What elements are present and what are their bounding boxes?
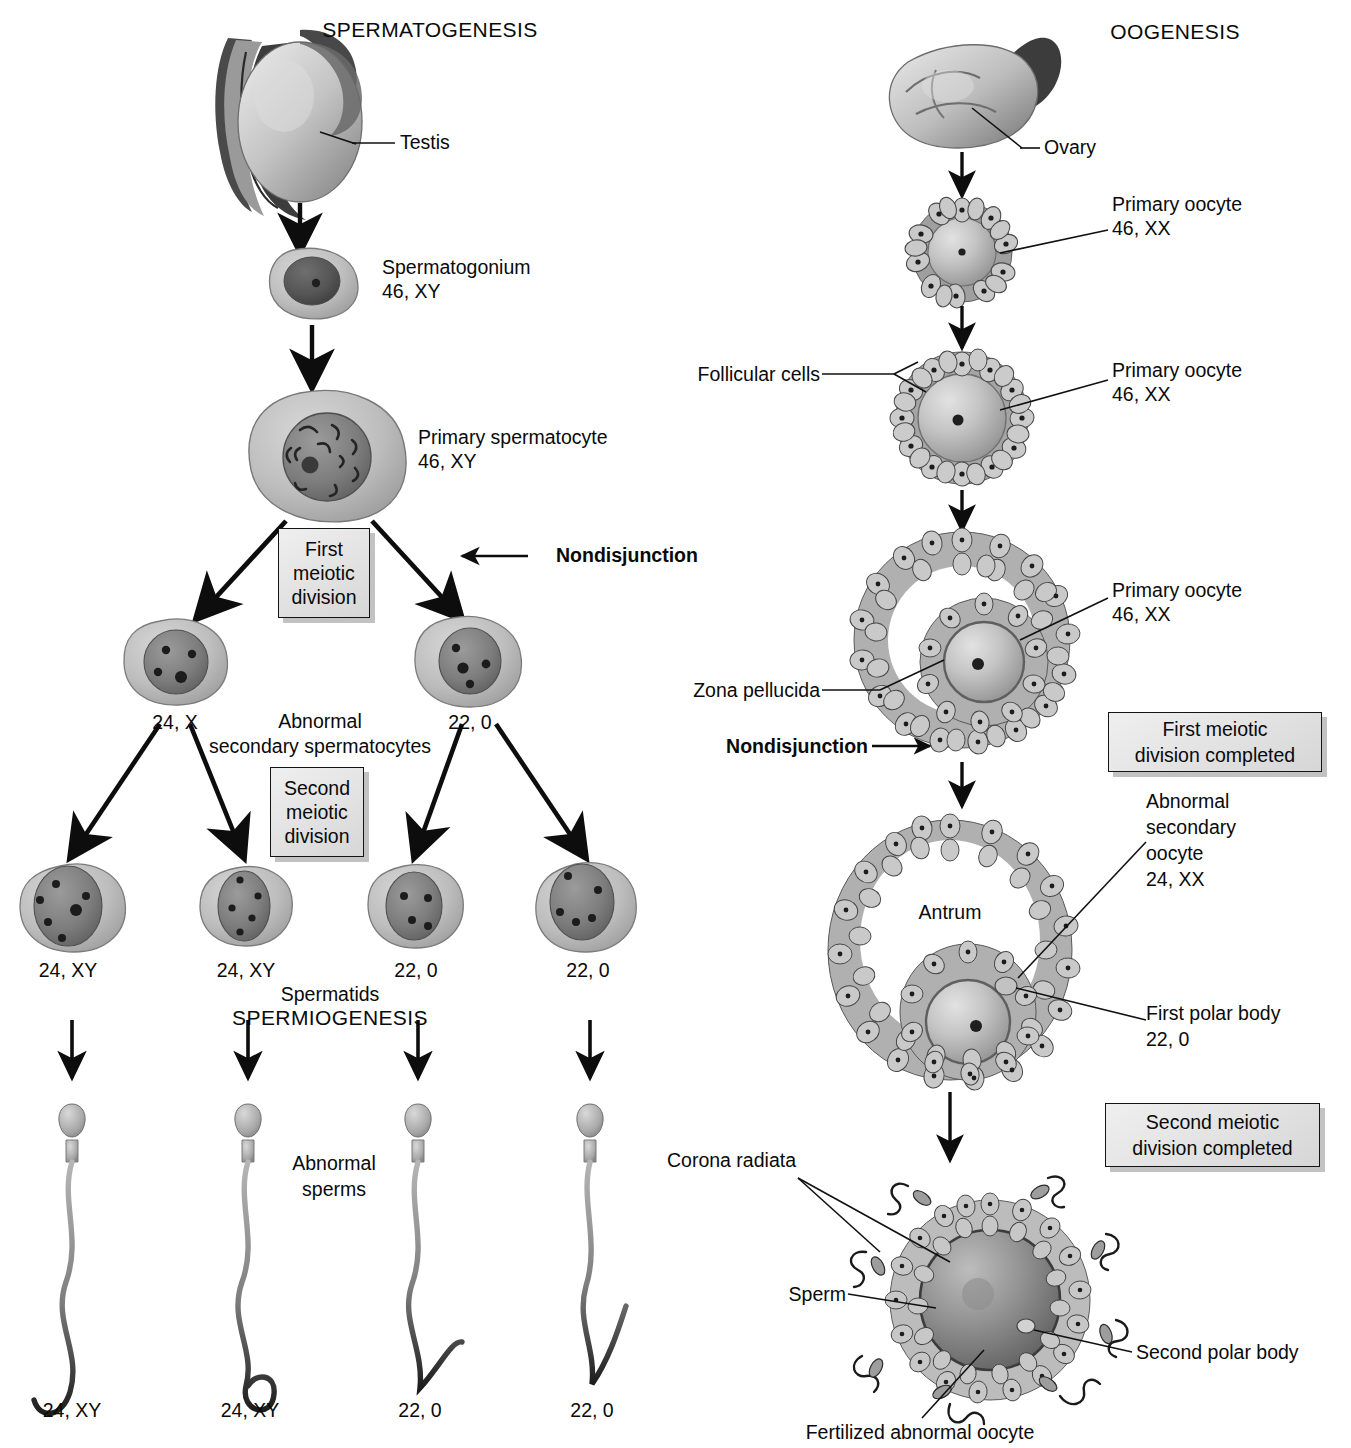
secondary-spermatocyte-right xyxy=(415,616,522,707)
second-polar-body-label: Second polar body xyxy=(1136,1340,1299,1364)
abnormal-secondary-oocyte-label: Abnormal secondary oocyte 24, XX xyxy=(1146,788,1236,892)
nondisjunction-label-right: Nondisjunction xyxy=(726,734,868,758)
sperm-3-karyotype: 22, 0 xyxy=(398,1398,441,1422)
sperm-label: Sperm xyxy=(789,1282,846,1306)
spermatid-1 xyxy=(20,864,125,952)
corona-radiata-label: Corona radiata xyxy=(667,1148,796,1172)
sperm-4 xyxy=(577,1104,626,1384)
sperm-1-karyotype: 24, XY xyxy=(43,1398,102,1422)
abnormal-sperms-label: Abnormal sperms xyxy=(224,1150,444,1202)
spermatid-4 xyxy=(536,863,636,952)
sperm-1 xyxy=(34,1104,85,1413)
second-meiotic-division-completed-box: Second meiotic division completed xyxy=(1105,1103,1320,1167)
spermatids-label: Spermatids xyxy=(281,982,380,1006)
testis-label: Testis xyxy=(400,130,450,154)
testis-illustration xyxy=(215,30,362,220)
sperm-4-karyotype: 22, 0 xyxy=(570,1398,613,1422)
antrum-label: Antrum xyxy=(919,900,982,924)
spermatogonium-label: Spermatogonium xyxy=(382,255,531,279)
spermatogenesis-title: SPERMATOGENESIS xyxy=(322,18,537,42)
nondisjunction-label-left: Nondisjunction xyxy=(556,543,698,567)
spermatogonium-karyotype: 46, XY xyxy=(382,279,441,303)
primary-oocyte-1-label: Primary oocyte xyxy=(1112,192,1242,216)
first-meiotic-division-box: First meiotic division xyxy=(278,528,370,618)
spermiogenesis-label: SPERMIOGENESIS xyxy=(232,1006,428,1030)
primary-follicle xyxy=(890,349,1036,487)
primary-oocyte-2-label: Primary oocyte xyxy=(1112,358,1242,382)
antral-follicle xyxy=(828,814,1081,1091)
primary-oocyte-1-karyotype: 46, XX xyxy=(1112,216,1171,240)
spermatid-3-karyotype: 22, 0 xyxy=(394,958,437,982)
spermatid-1-karyotype: 24, XY xyxy=(39,958,98,982)
spermatid-3 xyxy=(368,865,463,948)
figure-caption-clipped xyxy=(0,1432,1351,1448)
oogenesis-title: OOGENESIS xyxy=(1110,20,1240,44)
sperm-3 xyxy=(405,1104,462,1388)
first-polar-body-label: First polar body 22, 0 xyxy=(1146,1000,1280,1052)
spermatid-4-karyotype: 22, 0 xyxy=(566,958,609,982)
sperm-2-karyotype: 24, XY xyxy=(221,1398,280,1422)
spermatogonium-cell xyxy=(270,248,358,319)
primary-spermatocyte-label: Primary spermatocyte xyxy=(418,425,608,449)
secondary-spermatocyte-left xyxy=(124,619,228,705)
abnormal-secondary-spermatocytes-label: Abnormal secondary spermatocytes xyxy=(155,709,485,759)
spermatid-2-karyotype: 24, XY xyxy=(217,958,276,982)
first-meiotic-division-completed-box: First meiotic division completed xyxy=(1108,712,1322,772)
ovary-label: Ovary xyxy=(1044,135,1096,159)
primary-oocyte-3-label: Primary oocyte xyxy=(1112,578,1242,602)
growing-follicle xyxy=(848,528,1081,755)
second-meiotic-division-box: Second meiotic division xyxy=(270,767,364,857)
primary-spermatocyte-cell xyxy=(249,391,406,522)
primary-oocyte-2-karyotype: 46, XX xyxy=(1112,382,1171,406)
spermatid-2 xyxy=(200,867,292,946)
primary-spermatocyte-karyotype: 46, XY xyxy=(418,449,477,473)
figure-canvas: SPERMATOGENESIS Testis Spermatogonium 46… xyxy=(0,0,1351,1448)
zona-pellucida-label: Zona pellucida xyxy=(693,678,820,702)
follicular-cells-label: Follicular cells xyxy=(698,362,820,386)
primary-oocyte-3-karyotype: 46, XX xyxy=(1112,602,1171,626)
ovary-illustration xyxy=(889,38,1061,148)
